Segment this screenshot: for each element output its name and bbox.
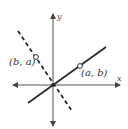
x-axis-label: x [117, 74, 122, 83]
dashed-line [18, 31, 72, 111]
diagram-canvas: x y (a, b) (b, a) [0, 0, 128, 129]
label-b-a: (b, a) [9, 56, 36, 67]
y-axis-label: y [56, 12, 62, 21]
label-a-b: (a, b) [81, 67, 108, 78]
origin-point [51, 83, 55, 87]
